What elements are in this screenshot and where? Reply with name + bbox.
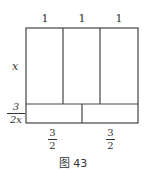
- bottom-fraction-2: 3 2: [106, 128, 115, 151]
- bottom-fraction-1: 3 2: [48, 128, 57, 151]
- denominator: 2: [49, 141, 55, 151]
- top-label-3: 1: [112, 13, 126, 24]
- side-label-x: x: [8, 61, 22, 72]
- top-label-1: 1: [38, 13, 52, 24]
- figure-diagram: [0, 0, 146, 176]
- numerator: 3: [13, 102, 19, 112]
- side-fraction: 3 2x: [7, 102, 25, 125]
- denominator: 2: [107, 141, 113, 151]
- numerator: 3: [49, 128, 55, 138]
- figure-caption: 图 43: [0, 154, 146, 170]
- numerator: 3: [107, 128, 113, 138]
- top-label-2: 1: [75, 13, 89, 24]
- denominator: 2x: [10, 115, 22, 125]
